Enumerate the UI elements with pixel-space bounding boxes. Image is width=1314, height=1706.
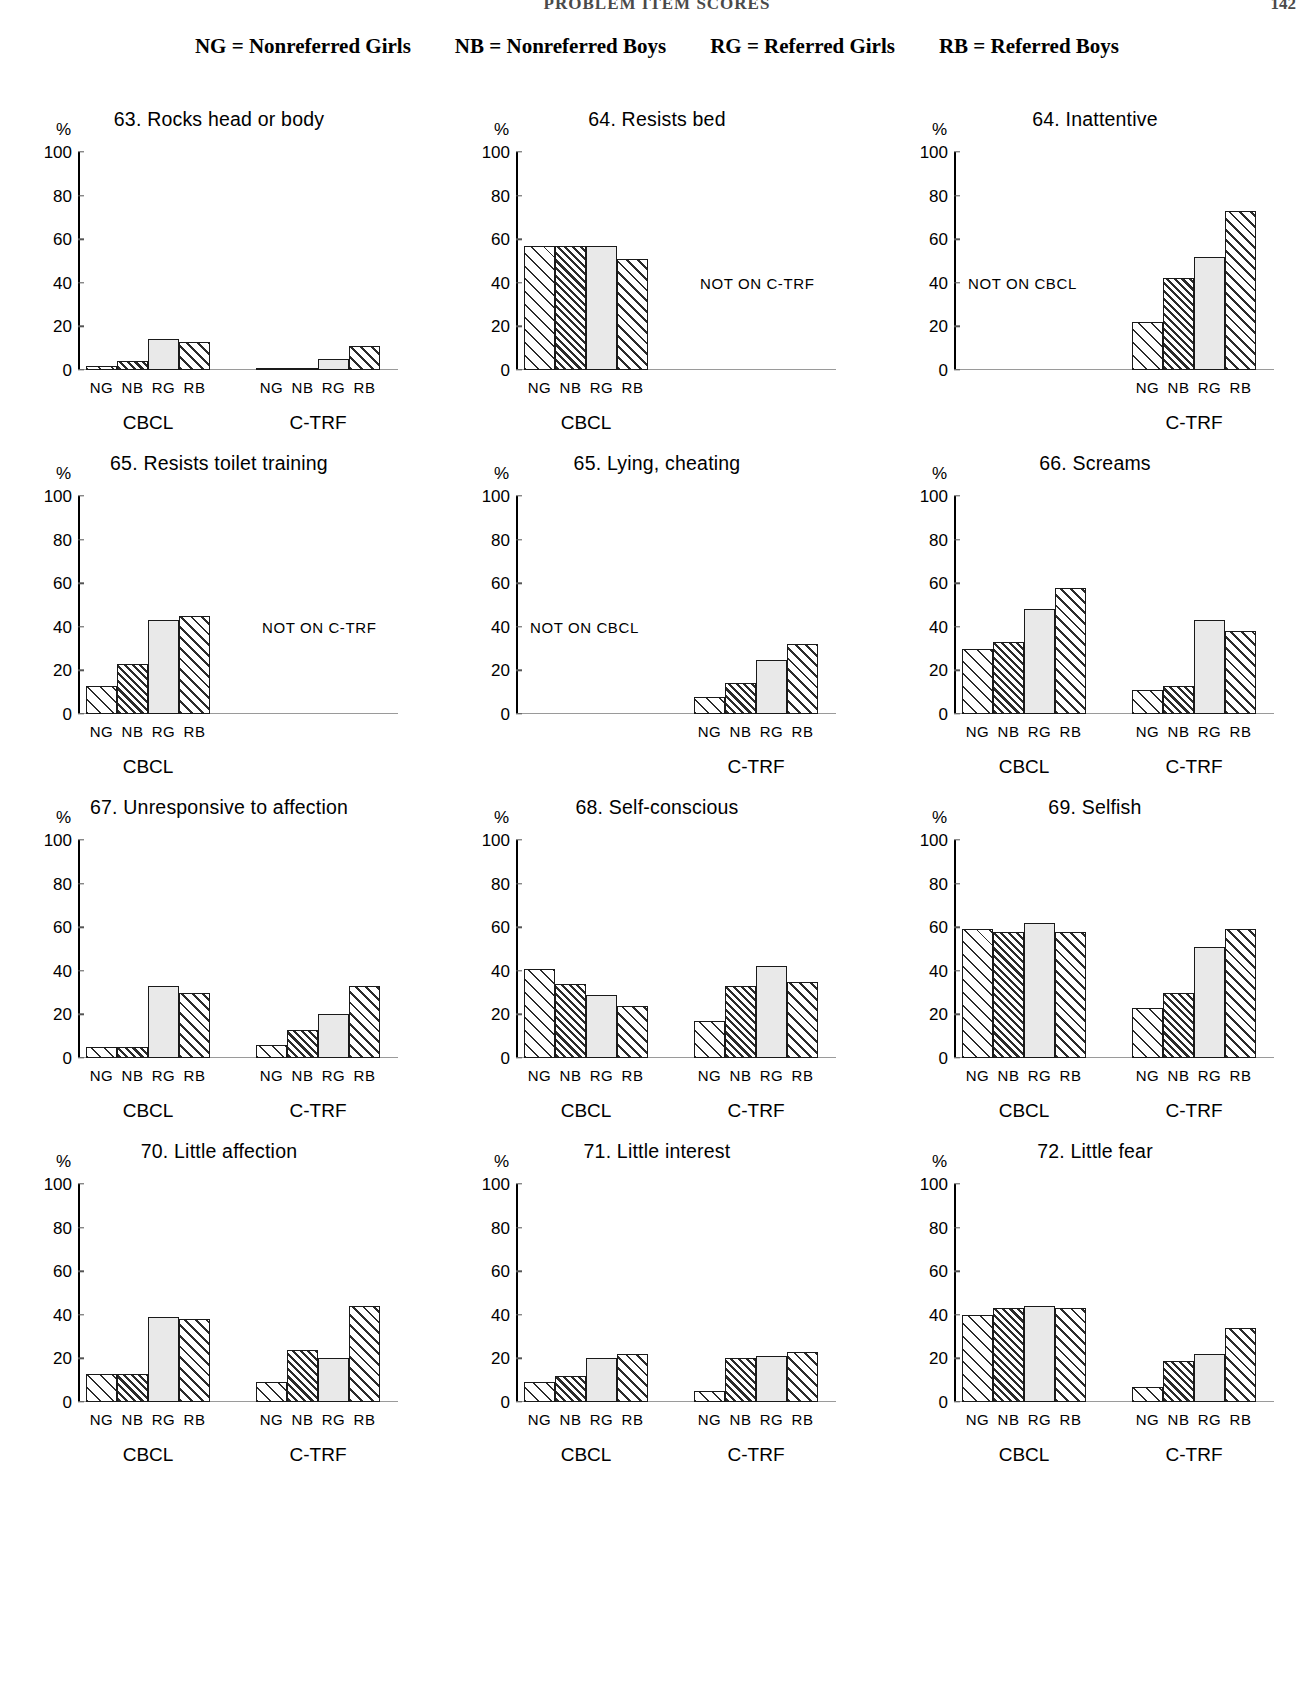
y-tick-mark: [78, 238, 84, 239]
bar-nb: [1163, 278, 1194, 370]
y-tick-label: 40: [468, 962, 510, 979]
bar-group-cbcl: [962, 496, 1086, 714]
plot-area: %100806040200NOT ON CBCLNGNBRGRBC-TRF: [954, 152, 1274, 370]
chart-grid: 63. Rocks head or body%100806040200NGNBR…: [0, 100, 1314, 1476]
x-tick-label: NB: [117, 1411, 148, 1428]
y-tick-mark: [954, 713, 960, 714]
x-tick-label: RB: [617, 379, 648, 396]
chart-panel-item-69: 69. Selfish%100806040200NGNBRGRBCBCLNGNB…: [876, 788, 1314, 1132]
y-tick-label: 40: [30, 618, 72, 635]
panel-label-cbcl: CBCL: [524, 1444, 648, 1466]
y-tick-mark: [78, 151, 84, 152]
bar-rg: [756, 660, 787, 715]
y-tick-label: 0: [468, 1394, 510, 1411]
bar-group-cbcl: [524, 840, 648, 1058]
y-tick-label: 100: [906, 832, 948, 849]
y-tick-mark: [954, 839, 960, 840]
y-tick-label: 40: [30, 274, 72, 291]
x-tick-label: NG: [962, 1411, 993, 1428]
bar-rg: [148, 1317, 179, 1402]
panel-label-cbcl: CBCL: [86, 1444, 210, 1466]
y-tick-label: 80: [30, 1219, 72, 1236]
x-tick-label: RG: [586, 379, 617, 396]
y-tick-mark: [78, 970, 84, 971]
y-axis-line: [516, 840, 518, 1058]
y-tick-mark: [954, 582, 960, 583]
x-tick-label: RG: [756, 1067, 787, 1084]
bar-nb: [725, 986, 756, 1058]
y-axis-line: [78, 1184, 80, 1402]
bar-rb: [349, 346, 380, 370]
y-axis-unit-label: %: [56, 120, 71, 140]
bar-group-ctrf: [256, 152, 380, 370]
y-tick-label: 100: [468, 488, 510, 505]
bar-ng: [524, 969, 555, 1058]
y-axis-unit-label: %: [494, 1152, 509, 1172]
y-tick-mark: [954, 1183, 960, 1184]
y-tick-mark: [954, 151, 960, 152]
y-tick-label: 40: [30, 962, 72, 979]
bar-rb: [179, 993, 210, 1058]
running-title: PROBLEM ITEM SCORES: [0, 0, 1314, 14]
x-tick-label: NB: [117, 1067, 148, 1084]
x-tick-labels: NGNBRGRB: [524, 379, 648, 396]
x-tick-label: RG: [1194, 1067, 1225, 1084]
y-tick-label: 60: [30, 919, 72, 936]
x-tick-labels: NGNBRGRB: [962, 1067, 1086, 1084]
y-tick-label: 20: [30, 1006, 72, 1023]
x-tick-labels: NGNBRGRB: [86, 379, 210, 396]
y-tick-mark: [78, 326, 84, 327]
chart-panel-item-72: 72. Little fear%100806040200NGNBRGRBCBCL…: [876, 1132, 1314, 1476]
x-tick-label: NB: [993, 723, 1024, 740]
bar-ng: [524, 246, 555, 370]
y-tick-label: 100: [906, 1176, 948, 1193]
x-tick-label: NB: [993, 1067, 1024, 1084]
y-tick-mark: [954, 1014, 960, 1015]
x-tick-label: NB: [555, 1067, 586, 1084]
y-tick-label: 0: [468, 706, 510, 723]
y-tick-label: 20: [468, 662, 510, 679]
bar-rg: [586, 995, 617, 1058]
legend: NG = Nonreferred Girls NB = Nonreferred …: [0, 34, 1314, 59]
x-tick-labels: NGNBRGRB: [524, 1411, 648, 1428]
bar-rg: [148, 986, 179, 1058]
x-tick-label: NG: [524, 1411, 555, 1428]
y-tick-mark: [516, 713, 522, 714]
bar-rb: [1055, 932, 1086, 1058]
y-tick-mark: [954, 1401, 960, 1402]
bar-rb: [1225, 929, 1256, 1058]
y-axis-unit-label: %: [932, 1152, 947, 1172]
y-tick-label: 100: [30, 832, 72, 849]
y-axis-line: [954, 152, 956, 370]
x-tick-labels: NGNBRGRB: [694, 723, 818, 740]
chart-panel-item-66-screams: 66. Screams%100806040200NGNBRGRBCBCLNGNB…: [876, 444, 1314, 788]
y-tick-mark: [516, 195, 522, 196]
x-tick-label: RB: [1225, 1411, 1256, 1428]
x-tick-label: NB: [725, 1411, 756, 1428]
y-tick-mark: [516, 238, 522, 239]
bar-rb: [787, 644, 818, 714]
panel-label-cbcl: CBCL: [86, 1100, 210, 1122]
y-tick-mark: [954, 195, 960, 196]
panel-label-ctrf: C-TRF: [1132, 756, 1256, 778]
x-tick-labels: NGNBRGRB: [1132, 379, 1256, 396]
bar-group-ctrf: [1132, 840, 1256, 1058]
bar-rg: [1024, 923, 1055, 1058]
bar-rb: [1055, 588, 1086, 714]
y-tick-label: 40: [468, 274, 510, 291]
bar-rg: [1194, 947, 1225, 1058]
y-tick-label: 60: [468, 1263, 510, 1280]
y-tick-label: 60: [906, 1263, 948, 1280]
bar-group-cbcl: [962, 1184, 1086, 1402]
y-tick-label: 40: [906, 1306, 948, 1323]
x-tick-label: NG: [694, 1411, 725, 1428]
chart-panel-item-65-toilet: 65. Resists toilet training%100806040200…: [0, 444, 438, 788]
panel-label-cbcl: CBCL: [962, 1444, 1086, 1466]
bar-ng: [86, 366, 117, 370]
y-tick-mark: [516, 970, 522, 971]
chart-panel-item-70: 70. Little affection%100806040200NGNBRGR…: [0, 1132, 438, 1476]
y-tick-label: 80: [468, 875, 510, 892]
x-tick-label: RB: [1225, 723, 1256, 740]
y-tick-label: 80: [30, 187, 72, 204]
y-tick-mark: [954, 495, 960, 496]
